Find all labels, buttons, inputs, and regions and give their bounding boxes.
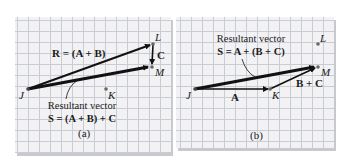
panel-b-caption: (b): [250, 130, 263, 141]
resultant-formula-a: S = (A + B) + C: [43, 114, 121, 125]
point-j-a: [26, 87, 30, 91]
leader-line-b: [242, 59, 255, 77]
label-vector-c: C: [157, 50, 165, 61]
resultant-formula-b: S = A + (B + C): [211, 47, 291, 58]
point-m-b: [316, 65, 320, 69]
label-l-a: L: [155, 32, 161, 43]
resultant-s-arrow-a: [28, 67, 148, 89]
label-j-b: J: [186, 90, 191, 101]
label-vector-bc: B + C: [296, 78, 323, 89]
point-m-a: [150, 65, 154, 69]
vector-c-arrow: [152, 45, 153, 64]
resultant-caption-a: Resultant vector S = (A + B) + C: [43, 101, 121, 124]
vector-diagram: [0, 0, 347, 166]
label-vector-a: A: [231, 92, 239, 103]
point-j-b: [193, 87, 197, 91]
label-l-b: L: [320, 33, 326, 44]
resultant-title-b: Resultant vector: [211, 34, 291, 45]
label-j-a: J: [19, 90, 24, 101]
label-vector-r: R = (A + B): [52, 48, 105, 59]
panel-a-caption: (a): [78, 128, 90, 139]
resultant-caption-b: Resultant vector S = A + (B + C): [211, 34, 291, 57]
label-k-b: K: [272, 90, 279, 101]
resultant-title-a: Resultant vector: [43, 101, 121, 112]
label-m-a: M: [155, 67, 164, 78]
